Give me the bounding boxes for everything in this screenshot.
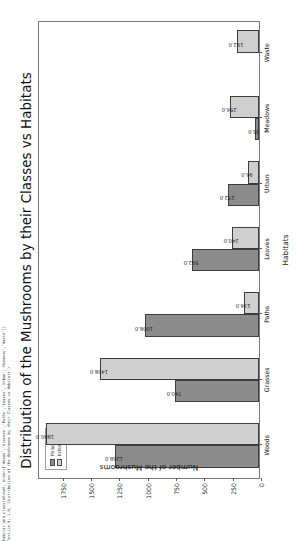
bar-group: 1008.0136.0Paths (39, 282, 259, 347)
bar-poisonous-urban: 272.0 (228, 184, 259, 206)
x-tick-mark (259, 52, 262, 53)
x-tick-mark (259, 248, 262, 249)
y-tick-mark (233, 478, 234, 481)
x-tick-label: Woods (263, 435, 270, 455)
y-tick-mark (63, 478, 64, 481)
bar-value-label: 740.0 (167, 391, 182, 397)
chart-title: Distribution of the Mushrooms by their C… (18, 0, 34, 541)
bar-group: 740.01408.0Grasses (39, 347, 259, 412)
y-tick-mark (119, 478, 120, 481)
bar-group: 592.0240.0Leaves (39, 216, 259, 281)
x-tick-mark (259, 117, 262, 118)
x-tick-label: Leaves (263, 238, 270, 260)
bar-edible-woods: 1880.0 (46, 423, 259, 445)
y-tick-label: 500 (201, 483, 208, 495)
y-tick-label: 1000 (144, 483, 151, 499)
y-tick-mark (176, 478, 177, 481)
y-tick-mark (261, 478, 262, 481)
plot-area: Poisonous Edible 02505007501000125015001… (38, 21, 260, 479)
matplotlib-figure: Distribution of the Mushrooms by their C… (0, 0, 307, 541)
x-axis-label: Habitats (281, 22, 290, 478)
bar-value-label: 192.0 (229, 42, 244, 48)
y-tick-mark (204, 478, 205, 481)
bar-value-label: 1408.0 (89, 369, 107, 375)
bar-value-label: 136.0 (235, 303, 250, 309)
bar-edible-urban: 96.0 (248, 161, 259, 183)
bar-group: 192.0Waste (39, 20, 259, 85)
x-tick-mark (259, 379, 262, 380)
x-tick-mark (259, 444, 262, 445)
screenshot-frame: habitat_and_class(df=mdf, order=['Woods'… (0, 0, 307, 541)
x-tick-label: Paths (263, 306, 270, 323)
bar-value-label: 240.0 (223, 238, 238, 244)
y-tick-label: 750 (173, 483, 180, 495)
bar-poisonous-leaves: 592.0 (192, 249, 259, 271)
x-tick-mark (259, 183, 262, 184)
y-tick-label: 1750 (59, 483, 66, 499)
bar-group: 272.096.0Urban (39, 151, 259, 216)
y-tick-label: 0 (258, 483, 265, 487)
y-tick-label: 250 (229, 483, 236, 495)
x-tick-mark (259, 313, 262, 314)
bar-poisonous-paths: 1008.0 (145, 314, 259, 336)
bar-edible-grasses: 1408.0 (100, 358, 259, 380)
bar-edible-paths: 136.0 (244, 292, 259, 314)
x-tick-label: Grasses (263, 368, 270, 393)
bar-value-label: 256.0 (222, 107, 237, 113)
bar-poisonous-meadows: 36.0 (255, 118, 259, 140)
rotated-figure-container: habitat_and_class(df=mdf, order=['Woods'… (0, 0, 307, 541)
bar-value-label: 1008.0 (135, 326, 153, 332)
bar-value-label: 592.0 (184, 260, 199, 266)
y-tick-mark (148, 478, 149, 481)
x-tick-label: Meadows (263, 104, 270, 133)
bar-value-label: 36.0 (248, 129, 260, 135)
y-tick-label: 1500 (88, 483, 95, 499)
bar-edible-meadows: 256.0 (230, 96, 259, 118)
y-tick-label: 1250 (116, 483, 123, 499)
bar-poisonous-grasses: 740.0 (175, 380, 259, 402)
bar-value-label: 1880.0 (36, 434, 54, 440)
y-axis-label: Number of the Mushrooms (38, 463, 260, 472)
bar-group: 36.0256.0Meadows (39, 85, 259, 150)
bar-edible-waste: 192.0 (237, 31, 259, 53)
bar-edible-leaves: 240.0 (232, 227, 259, 249)
x-tick-label: Waste (263, 43, 270, 62)
x-tick-label: Urban (263, 174, 270, 193)
bar-value-label: 272.0 (220, 195, 235, 201)
y-tick-mark (91, 478, 92, 481)
bar-value-label: 96.0 (241, 172, 253, 178)
